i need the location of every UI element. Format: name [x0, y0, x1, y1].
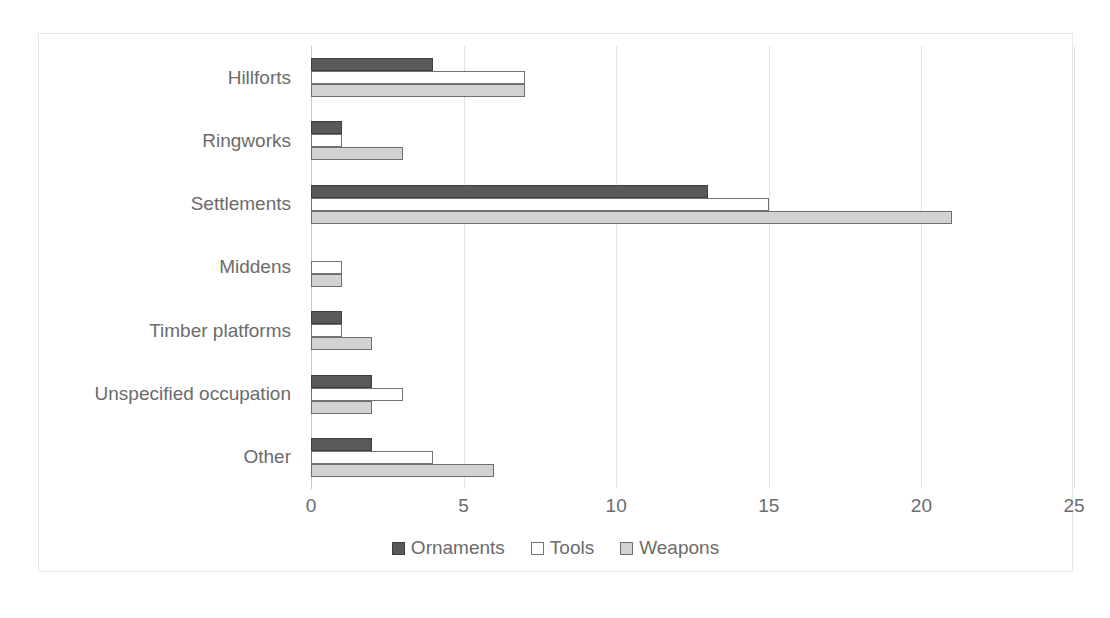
x-tick-label-0: 0 — [306, 495, 317, 517]
bar-tools — [311, 198, 769, 211]
bar-tools — [311, 451, 433, 464]
category-label-other: Other — [243, 426, 291, 489]
category-label-timber-platforms: Timber platforms — [149, 299, 291, 362]
legend-swatch-tools-icon — [531, 542, 544, 555]
bar-ornaments — [311, 438, 372, 451]
x-axis-tick-labels: 0510152025 — [311, 495, 1074, 525]
category-label-ringworks: Ringworks — [202, 109, 291, 172]
x-tick-label-20: 20 — [911, 495, 932, 517]
bar-group — [311, 236, 1074, 299]
bar-tools — [311, 71, 525, 84]
legend-label: Ornaments — [411, 537, 505, 559]
bar-weapons — [311, 274, 342, 287]
bar-weapons — [311, 84, 525, 97]
bar-ornaments — [311, 121, 342, 134]
legend-item-ornaments[interactable]: Ornaments — [392, 537, 505, 559]
bar-tools — [311, 134, 342, 147]
bar-group — [311, 426, 1074, 489]
bar-weapons — [311, 337, 372, 350]
legend-item-tools[interactable]: Tools — [531, 537, 594, 559]
legend-label: Weapons — [639, 537, 719, 559]
bar-rows — [311, 46, 1074, 489]
x-tick-label-25: 25 — [1063, 495, 1084, 517]
bar-group-bars — [311, 242, 1074, 293]
category-label-unspecified-occupation: Unspecified occupation — [95, 362, 291, 425]
category-axis-labels: HillfortsRingworksSettlementsMiddensTimb… — [39, 46, 301, 489]
bar-group — [311, 362, 1074, 425]
category-label-middens: Middens — [219, 236, 291, 299]
gridline-25 — [1074, 46, 1075, 489]
bar-tools — [311, 324, 342, 337]
legend-label: Tools — [550, 537, 594, 559]
x-tick-label-5: 5 — [458, 495, 469, 517]
legend-swatch-ornaments-icon — [392, 542, 405, 555]
x-tick-label-15: 15 — [758, 495, 779, 517]
bar-group-bars — [311, 432, 1074, 483]
bar-weapons — [311, 211, 952, 224]
bar-ornaments — [311, 58, 433, 71]
chart-legend: OrnamentsToolsWeapons — [39, 537, 1072, 559]
bar-group — [311, 109, 1074, 172]
bar-group-bars — [311, 179, 1074, 230]
bar-ornaments — [311, 185, 708, 198]
category-label-hillforts: Hillforts — [228, 46, 291, 109]
plot-area — [311, 46, 1074, 489]
bar-group-bars — [311, 52, 1074, 103]
bar-weapons — [311, 464, 494, 477]
category-label-settlements: Settlements — [191, 173, 291, 236]
bar-group — [311, 173, 1074, 236]
legend-swatch-weapons-icon — [620, 542, 633, 555]
bar-tools — [311, 388, 403, 401]
bar-group-bars — [311, 305, 1074, 356]
bar-group — [311, 299, 1074, 362]
bar-ornaments — [311, 311, 342, 324]
bar-group-bars — [311, 368, 1074, 419]
bar-tools — [311, 261, 342, 274]
bar-group — [311, 46, 1074, 109]
x-tick-label-10: 10 — [606, 495, 627, 517]
bar-weapons — [311, 401, 372, 414]
bar-weapons — [311, 147, 403, 160]
legend-item-weapons[interactable]: Weapons — [620, 537, 719, 559]
bar-group-bars — [311, 115, 1074, 166]
chart-frame: HillfortsRingworksSettlementsMiddensTimb… — [38, 33, 1073, 572]
bar-ornaments — [311, 375, 372, 388]
